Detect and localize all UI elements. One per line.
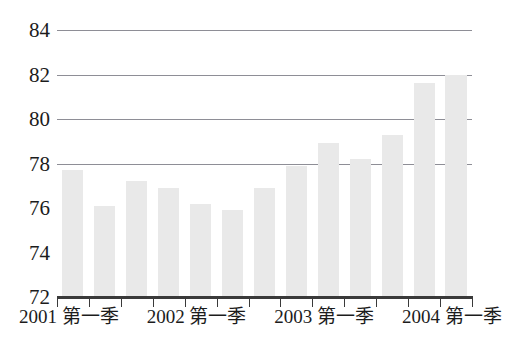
- x-tick-label: 2002 第一季: [147, 307, 247, 326]
- bar-slot: [440, 30, 472, 297]
- plot-area: [57, 30, 472, 297]
- bar: [414, 83, 435, 297]
- x-axis-cap: [57, 296, 58, 303]
- bar-slot: [121, 30, 153, 297]
- bar: [350, 159, 371, 297]
- bar-slot: [89, 30, 121, 297]
- x-axis-cap: [472, 296, 473, 303]
- bar-slot: [185, 30, 217, 297]
- bar-slot: [408, 30, 440, 297]
- bar-slot: [280, 30, 312, 297]
- bar-slot: [153, 30, 185, 297]
- x-tick-label: 2004 第一季: [402, 307, 502, 326]
- y-tick-label: 72: [2, 287, 50, 308]
- bar: [94, 206, 115, 297]
- x-tick-label: 2003 第一季: [274, 307, 374, 326]
- bar: [318, 143, 339, 297]
- y-tick-label: 74: [2, 242, 50, 263]
- y-axis-labels: 84828078767472: [0, 0, 50, 340]
- bar: [158, 188, 179, 297]
- x-tick-label: 2001 第一季: [19, 307, 119, 326]
- bar: [126, 181, 147, 297]
- bar-slot: [376, 30, 408, 297]
- bar-slot: [57, 30, 89, 297]
- x-axis-line: [57, 296, 472, 299]
- bar: [286, 166, 307, 297]
- y-tick-label: 82: [2, 64, 50, 85]
- bar-slot: [249, 30, 281, 297]
- bar-series: [57, 30, 472, 297]
- y-tick-label: 84: [2, 20, 50, 41]
- bar: [445, 75, 466, 298]
- x-tick: [121, 299, 122, 307]
- bar-slot: [344, 30, 376, 297]
- bar-chart: 84828078767472 2001 第一季2002 第一季2003 第一季2…: [0, 0, 515, 340]
- y-tick-label: 76: [2, 198, 50, 219]
- bar: [382, 135, 403, 297]
- y-tick-label: 80: [2, 109, 50, 130]
- x-axis-labels: 2001 第一季2002 第一季2003 第一季2004 第一季: [0, 307, 515, 337]
- bar-slot: [217, 30, 249, 297]
- bar: [62, 170, 83, 297]
- bar: [254, 188, 275, 297]
- bar: [190, 204, 211, 297]
- y-tick-label: 78: [2, 153, 50, 174]
- bar-slot: [312, 30, 344, 297]
- x-tick: [249, 299, 250, 307]
- x-tick: [376, 299, 377, 307]
- bar: [222, 210, 243, 297]
